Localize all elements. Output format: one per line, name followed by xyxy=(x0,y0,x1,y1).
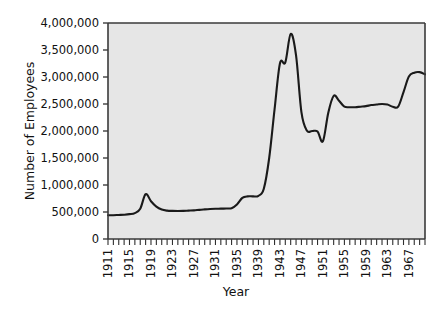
x-axis-tick-label: 1935 xyxy=(230,249,244,278)
x-axis-tick-label: 1943 xyxy=(273,249,287,278)
x-axis-tick-label: 1931 xyxy=(208,249,222,278)
chart-figure: 0500,0001,000,0001,500,0002,000,0002,500… xyxy=(0,0,445,314)
x-axis-tick-label: 1947 xyxy=(294,249,308,278)
x-axis-tick-label: 1919 xyxy=(144,249,158,278)
y-axis-tick-label: 2,500,000 xyxy=(40,97,99,111)
x-axis-tick-label: 1923 xyxy=(165,249,179,278)
y-axis-tick-label: 3,500,000 xyxy=(40,43,99,57)
x-axis-tick-label: 1915 xyxy=(122,249,136,278)
y-axis-tick-label: 2,000,000 xyxy=(40,124,99,138)
x-axis-tick-label: 1955 xyxy=(337,249,351,278)
x-axis-tick-labels: 1911191519191923192719311935193919431947… xyxy=(101,249,416,278)
x-axis-tick-label: 1911 xyxy=(101,249,115,278)
x-axis-tick-label: 1967 xyxy=(402,249,416,278)
x-axis-tick-label: 1939 xyxy=(251,249,265,278)
y-axis-title: Number of Employees xyxy=(22,62,37,201)
x-axis-tick-label: 1927 xyxy=(187,249,201,278)
y-axis-tick-label: 4,000,000 xyxy=(40,16,99,30)
employees-line-chart: 0500,0001,000,0001,500,0002,000,0002,500… xyxy=(0,0,445,314)
x-axis-tick-label: 1959 xyxy=(359,249,373,278)
y-axis-tick-label: 500,000 xyxy=(51,205,99,219)
y-axis-tick-label: 1,500,000 xyxy=(40,151,99,165)
x-axis-title: Year xyxy=(222,284,250,299)
y-axis-tick-label: 1,000,000 xyxy=(40,178,99,192)
y-axis-tick-label: 3,000,000 xyxy=(40,70,99,84)
x-axis-tick-label: 1951 xyxy=(316,249,330,278)
y-axis-tick-label: 0 xyxy=(92,232,99,246)
x-axis-tick-label: 1963 xyxy=(380,249,394,278)
